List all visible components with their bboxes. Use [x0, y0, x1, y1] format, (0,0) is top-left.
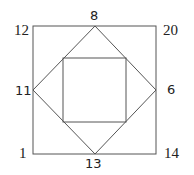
- label-bottom-mid: 13: [85, 156, 102, 171]
- label-top-mid: 8: [90, 8, 98, 23]
- label-bottom-right: 14: [164, 145, 180, 161]
- outer-square: [33, 26, 156, 154]
- label-bottom-left: 1: [19, 145, 27, 161]
- label-top-right: 20: [163, 22, 178, 38]
- label-left-mid: 11: [15, 83, 32, 98]
- label-top-left: 12: [14, 22, 29, 38]
- label-right-mid: 6: [167, 82, 175, 97]
- diamond: [33, 26, 156, 154]
- inner-square: [63, 58, 126, 122]
- square-diamond-diagram: 12 20 1 14 8 6 13 11: [0, 0, 194, 175]
